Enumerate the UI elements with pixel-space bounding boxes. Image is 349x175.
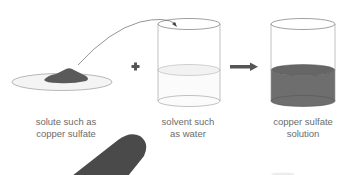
label-solvent: solvent such as water — [133, 116, 243, 140]
transfer-curve-arrow — [78, 19, 177, 65]
dark-blob — [72, 134, 146, 175]
plus-icon — [132, 63, 140, 71]
label-solution-line2: solution — [248, 128, 349, 140]
dissolution-diagram — [0, 0, 349, 175]
arrow-right-icon — [230, 63, 258, 72]
label-solute-line2: copper sulfate — [11, 128, 121, 140]
label-solute: solute such as copper sulfate — [11, 116, 121, 140]
label-solvent-line1: solvent such — [133, 116, 243, 128]
label-solvent-line2: as water — [133, 128, 243, 140]
solute-dish — [12, 68, 112, 90]
label-solution: copper sulfate solution — [248, 116, 349, 140]
beaker-solution — [271, 19, 335, 107]
label-solution-line1: copper sulfate — [248, 116, 349, 128]
beaker-solvent — [158, 19, 220, 107]
label-solute-line1: solute such as — [11, 116, 121, 128]
solute-pile — [44, 68, 88, 83]
